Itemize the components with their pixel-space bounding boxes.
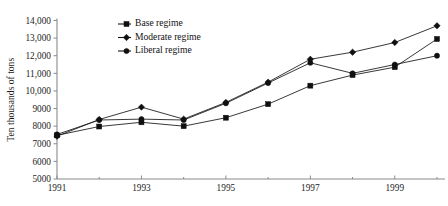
y-tick-label: 14,000: [25, 16, 51, 26]
y-tick-label: 13,000: [25, 33, 51, 43]
data-point: [181, 124, 186, 129]
data-point: [54, 132, 59, 137]
legend-label: Base regime: [135, 17, 183, 28]
chart-legend: Base regimeModerate regimeLiberal regime: [118, 17, 201, 55]
x-axis-ticks: 19911993199519971999: [48, 176, 437, 193]
legend-item-3: Liberal regime: [118, 44, 192, 55]
data-point: [223, 101, 228, 106]
x-tick-label: 1995: [217, 183, 236, 193]
y-tick-label: 10,000: [25, 86, 51, 96]
x-tick-label: 1991: [48, 183, 67, 193]
data-point: [349, 49, 355, 55]
legend-marker: [124, 48, 129, 53]
data-point: [266, 80, 271, 85]
data-point: [434, 23, 440, 29]
data-point: [350, 71, 355, 76]
data-point: [223, 115, 228, 120]
y-axis-ticks: 5000600070008000900010,00011,00012,00013…: [25, 16, 57, 185]
legend-label: Moderate regime: [135, 31, 201, 42]
data-point: [392, 39, 398, 45]
data-point: [434, 53, 439, 58]
y-tick-label: 8000: [32, 121, 51, 131]
y-tick-label: 11,000: [26, 69, 52, 79]
data-point: [138, 104, 144, 110]
x-tick-label: 1997: [301, 183, 320, 193]
line-chart: 5000600070008000900010,00011,00012,00013…: [0, 0, 448, 206]
legend-marker: [123, 34, 129, 40]
x-tick-label: 1999: [385, 183, 404, 193]
legend-label: Liberal regime: [135, 44, 192, 55]
data-point: [435, 36, 440, 41]
series-3: [54, 53, 439, 137]
chart-figure: 5000600070008000900010,00011,00012,00013…: [0, 0, 448, 206]
y-tick-label: 9000: [32, 104, 51, 114]
data-point: [139, 117, 144, 122]
legend-marker: [124, 22, 129, 27]
y-tick-label: 12,000: [25, 51, 51, 61]
legend-item-1: Base regime: [118, 17, 183, 28]
data-point: [392, 62, 397, 67]
series-1: [55, 36, 440, 137]
legend-item-2: Moderate regime: [118, 31, 201, 42]
data-series-group: [54, 23, 440, 140]
data-point: [97, 124, 102, 129]
y-tick-label: 7000: [32, 139, 51, 149]
data-point: [308, 60, 313, 65]
x-tick-label: 1993: [132, 183, 151, 193]
y-tick-label: 6000: [32, 157, 51, 167]
data-point: [97, 117, 102, 122]
data-point: [266, 102, 271, 107]
y-axis-title: Ten thousands of tons: [5, 58, 16, 142]
series-2: [54, 23, 440, 140]
data-point: [181, 117, 186, 122]
data-point: [308, 83, 313, 88]
